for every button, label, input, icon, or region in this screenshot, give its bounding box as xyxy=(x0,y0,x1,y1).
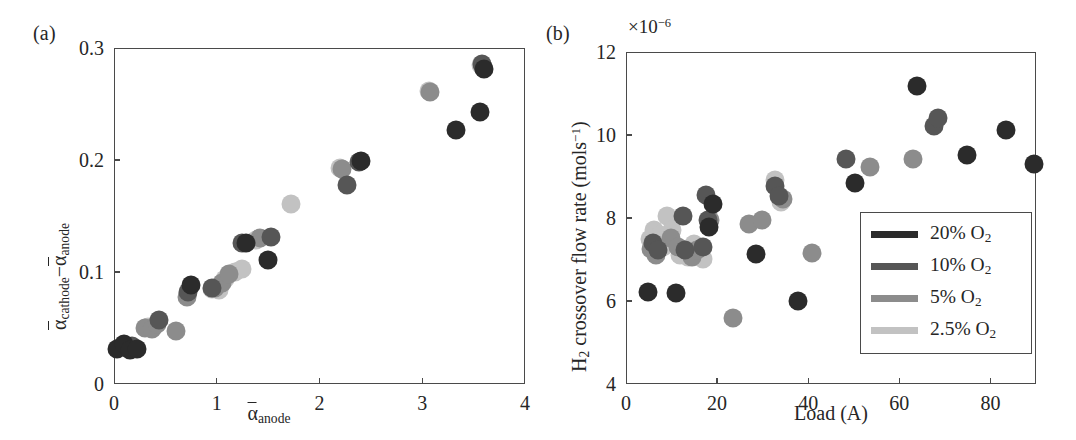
scatter-point xyxy=(1024,154,1043,173)
figure-container: (a) 00.10.20.301234 αanode αcathode−αano… xyxy=(0,0,1076,440)
legend-item[interactable]: 2.5% O2 xyxy=(871,317,996,343)
scatter-point xyxy=(338,175,357,194)
scatter-point xyxy=(648,241,667,260)
x-tick-label: 0 xyxy=(109,392,119,415)
x-tick-label: 80 xyxy=(980,392,1000,415)
x-tick xyxy=(216,378,217,384)
legend-swatch xyxy=(871,327,918,334)
x-tick-label: 60 xyxy=(889,392,909,415)
scatter-point xyxy=(127,340,146,359)
scatter-point xyxy=(667,283,686,302)
legend-label: 20% O2 xyxy=(930,222,991,246)
legend-item[interactable]: 5% O2 xyxy=(871,285,982,311)
scatter-point xyxy=(704,195,723,214)
y-tick xyxy=(626,217,632,218)
scatter-point xyxy=(746,244,765,263)
x-tick-label: 1 xyxy=(212,392,222,415)
panel-b-y-axis-title: H2 crossover flow rate (mols−1) xyxy=(568,121,593,372)
scatter-point xyxy=(638,282,657,301)
scatter-point xyxy=(281,194,300,213)
scatter-point xyxy=(836,149,855,168)
scatter-point xyxy=(997,120,1016,139)
legend-item[interactable]: 20% O2 xyxy=(871,221,991,247)
scatter-point xyxy=(700,218,719,237)
scatter-point xyxy=(202,278,221,297)
scatter-point xyxy=(447,120,466,139)
scatter-point xyxy=(421,82,440,101)
x-tick xyxy=(899,378,900,384)
legend-swatch xyxy=(871,295,918,302)
y-tick-label: 4 xyxy=(558,373,616,396)
panel-a-x-axis-title: αanode xyxy=(248,402,291,427)
panel-a-y-axis-title: αcathode−αanode xyxy=(48,223,73,330)
panel-a-scatter-chart: (a) 00.10.20.301234 αanode αcathode−αano… xyxy=(0,0,538,440)
y-tick-label: 0.2 xyxy=(46,149,104,172)
legend-label: 5% O2 xyxy=(930,286,982,310)
scatter-point xyxy=(351,152,370,171)
scatter-point xyxy=(259,250,278,269)
scatter-point xyxy=(182,276,201,295)
scatter-point xyxy=(166,322,185,341)
y-tick-label: 12 xyxy=(558,41,616,64)
x-tick xyxy=(990,378,991,384)
x-tick-label: 0 xyxy=(621,392,631,415)
scatter-point xyxy=(929,108,948,127)
x-tick xyxy=(808,378,809,384)
y-tick xyxy=(626,134,632,135)
y-tick xyxy=(114,159,120,160)
scatter-point xyxy=(904,150,923,169)
panel-b-legend: 20% O210% O25% O22.5% O2 xyxy=(860,212,1032,354)
scatter-point xyxy=(770,187,789,206)
y-tick xyxy=(114,271,120,272)
scatter-point xyxy=(802,244,821,263)
legend-label: 2.5% O2 xyxy=(930,318,996,342)
scatter-point xyxy=(236,233,255,252)
scatter-point xyxy=(845,174,864,193)
x-tick xyxy=(422,378,423,384)
scatter-point xyxy=(723,309,742,328)
x-tick-label: 3 xyxy=(417,392,427,415)
scatter-point xyxy=(150,311,169,330)
scatter-point xyxy=(262,228,281,247)
scatter-point xyxy=(860,157,879,176)
y-tick xyxy=(626,300,632,301)
panel-b-axis-multiplier: ×10−6 xyxy=(628,16,671,38)
x-tick xyxy=(319,378,320,384)
scatter-point xyxy=(789,291,808,310)
scatter-point xyxy=(673,206,692,225)
scatter-point xyxy=(957,145,976,164)
x-tick-label: 2 xyxy=(315,392,325,415)
x-tick-label: 4 xyxy=(520,392,530,415)
scatter-point xyxy=(752,210,771,229)
x-tick xyxy=(716,378,717,384)
scatter-point xyxy=(470,102,489,121)
y-tick-label: 0 xyxy=(46,373,104,396)
x-tick-label: 20 xyxy=(707,392,727,415)
scatter-point xyxy=(907,77,926,96)
scatter-point xyxy=(676,240,695,259)
legend-item[interactable]: 10% O2 xyxy=(871,253,991,279)
legend-swatch xyxy=(871,231,918,238)
scatter-point xyxy=(693,237,712,256)
legend-swatch xyxy=(871,263,918,270)
scatter-point xyxy=(220,265,239,284)
panel-b-scatter-chart: (b) ×10−6 4681012020406080 Load (A) H2 c… xyxy=(538,0,1076,440)
panel-b-x-axis-title: Load (A) xyxy=(794,402,868,425)
y-tick-label: 0.3 xyxy=(46,37,104,60)
scatter-point xyxy=(474,60,493,79)
legend-label: 10% O2 xyxy=(930,254,991,278)
